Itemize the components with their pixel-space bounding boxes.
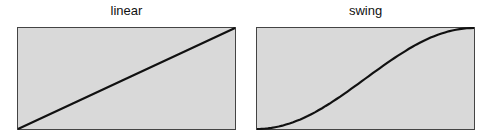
linear-curve <box>18 28 235 129</box>
linear-plot <box>17 27 236 130</box>
swing-panel: swing <box>256 0 475 140</box>
swing-plot <box>256 27 475 130</box>
swing-curve-svg <box>257 28 474 129</box>
swing-title: swing <box>256 3 475 18</box>
linear-title: linear <box>17 3 236 18</box>
linear-panel: linear <box>17 0 236 140</box>
linear-curve-svg <box>18 28 235 129</box>
swing-curve <box>257 28 474 129</box>
